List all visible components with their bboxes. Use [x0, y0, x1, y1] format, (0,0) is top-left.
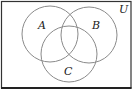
- universe-label: U: [119, 3, 129, 16]
- venn-diagram: A B C U: [0, 0, 133, 92]
- set-b-label: B: [91, 19, 100, 32]
- set-a-label: A: [37, 19, 46, 32]
- set-c-label: C: [64, 65, 73, 78]
